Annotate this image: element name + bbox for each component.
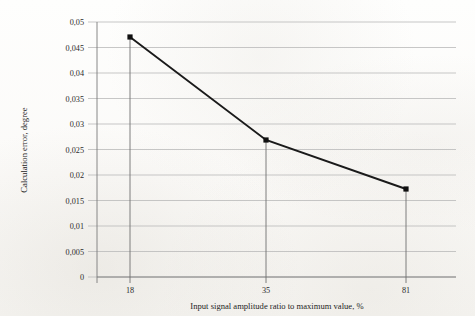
data-point-marker-35: [263, 137, 268, 142]
x-axis-title: Input signal amplitude ratio to maximum …: [190, 301, 363, 311]
series-line-calculation-error: [130, 37, 406, 189]
y-tick-label: 0,045: [66, 44, 84, 53]
y-tick-label: 0,035: [66, 95, 84, 104]
y-tick-label: 0,02: [70, 171, 84, 180]
data-point-marker-18: [127, 34, 132, 39]
y-tick-label: 0: [80, 273, 84, 282]
y-axis-tick-labels: 0,05 0,045 0,04 0,035 0,03 0,025 0,02 0,…: [66, 18, 84, 282]
gridlines: [88, 22, 456, 277]
y-tick-label: 0,05: [70, 18, 84, 27]
y-tick-label: 0,005: [66, 248, 84, 257]
x-tick-label: 18: [126, 286, 134, 295]
x-tick-label: 35: [262, 286, 270, 295]
y-tick-label: 0,01: [70, 222, 84, 231]
x-tick-label: 81: [402, 286, 410, 295]
data-point-markers: [127, 34, 408, 191]
y-axis-title: Calculation error, degree: [19, 107, 29, 192]
y-tick-label: 0,025: [66, 146, 84, 155]
y-tick-label: 0,03: [70, 120, 84, 129]
y-tick-label: 0,015: [66, 197, 84, 206]
category-drop-lines: [130, 37, 406, 283]
data-point-marker-81: [403, 186, 408, 191]
x-axis-tick-labels: 18 35 81: [126, 286, 410, 295]
chart-figure: 0,05 0,045 0,04 0,035 0,03 0,025 0,02 0,…: [0, 0, 475, 316]
y-tick-label: 0,04: [70, 69, 84, 78]
line-chart-canvas: 0,05 0,045 0,04 0,035 0,03 0,025 0,02 0,…: [0, 0, 475, 316]
